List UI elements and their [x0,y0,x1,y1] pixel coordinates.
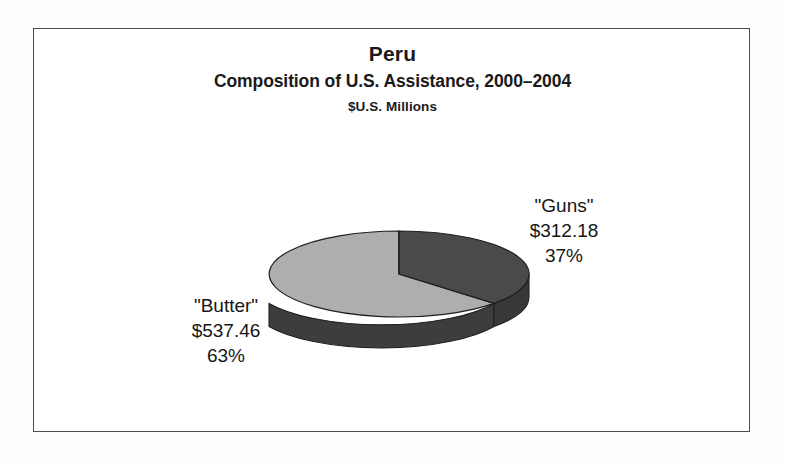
pie-label-butter: "Butter" $537.46 63% [146,293,306,368]
pie-label-butter-percent: 63% [146,343,306,368]
pie-label-guns-name: "Guns" [489,193,639,218]
page-background: Peru Composition of U.S. Assistance, 200… [0,0,785,464]
figure-frame: Peru Composition of U.S. Assistance, 200… [33,28,750,432]
pie-chart [34,29,751,433]
pie-label-butter-name: "Butter" [146,293,306,318]
pie-label-guns-value: $312.18 [489,218,639,243]
pie-label-guns-percent: 37% [489,243,639,268]
pie-label-guns: "Guns" $312.18 37% [489,193,639,268]
pie-label-butter-value: $537.46 [146,318,306,343]
